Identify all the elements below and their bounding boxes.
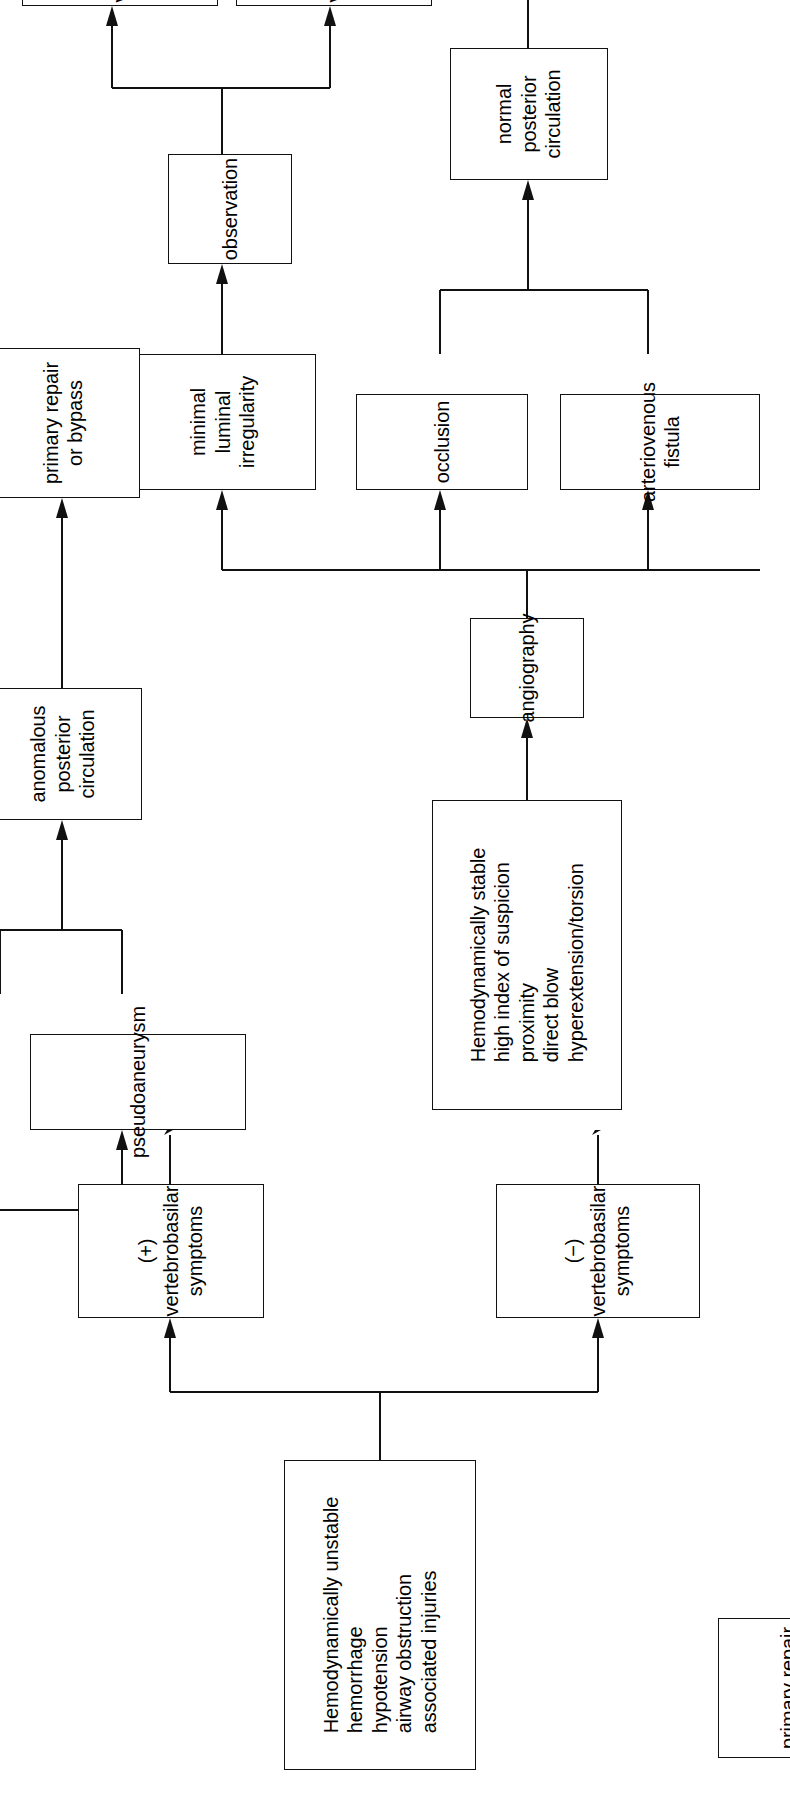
node-unstable-negative-symptoms: (−) vertebrobasilar symptoms (496, 1184, 700, 1318)
node-unstable-primary-repair-or-bypass: primary repair or bypass (718, 1618, 790, 1758)
node-stable-pseudoaneurysm: pseudoaneurysm (30, 1034, 246, 1130)
node-stable-presentation: Hemodynamically stable high index of sus… (432, 800, 622, 1110)
node-stable-normal-posterior-circulation: normal posterior circulation (450, 48, 608, 180)
node-unstable-presentation: Hemodynamically unstable hemorrhage hypo… (284, 1460, 476, 1770)
node-unstable-positive-symptoms: (+) vertebrobasilar symptoms (78, 1184, 264, 1318)
node-stable-angiography: angiography (470, 618, 584, 718)
node-stable-arteriovenous-fistula: arteriovenous fistula (560, 394, 760, 490)
node-stable-anomalous-posterior-circulation: anomalous posterior circulation (0, 688, 142, 820)
panel-hemodynamically-unstable-terminals: primary repair or bypass ligation (630, 1590, 790, 1790)
flowchart-page: Hemodynamically stable high index of sus… (0, 0, 790, 1806)
node-stable-primary-repair-or-bypass: primary repair or bypass (0, 348, 140, 498)
